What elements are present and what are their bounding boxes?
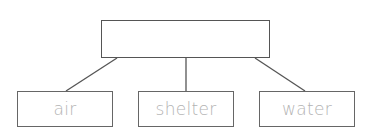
- root-node-box[interactable]: [101, 20, 270, 58]
- child-node-label: shelter: [155, 99, 216, 119]
- child-node-label: air: [53, 99, 76, 119]
- child-node-water[interactable]: water: [259, 91, 355, 127]
- child-node-label: water: [282, 99, 332, 119]
- child-node-air[interactable]: air: [17, 91, 113, 127]
- child-node-shelter[interactable]: shelter: [138, 91, 234, 127]
